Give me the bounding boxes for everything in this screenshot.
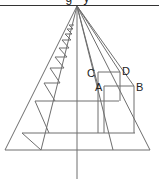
perspective-diagram: g y	[0, 0, 159, 181]
left-edge-orthogonal	[5, 6, 77, 150]
perspective-drawing: C D A B	[0, 0, 159, 181]
diagonal-2	[35, 101, 49, 133]
label-c: C	[87, 67, 95, 79]
label-d: D	[122, 65, 130, 77]
diagonal-3	[44, 83, 55, 101]
diagonal-4	[50, 68, 60, 83]
diagonal-1	[22, 133, 41, 150]
clipped-title-text: g y	[0, 0, 159, 5]
label-a: A	[95, 81, 103, 93]
label-b: B	[136, 81, 143, 93]
